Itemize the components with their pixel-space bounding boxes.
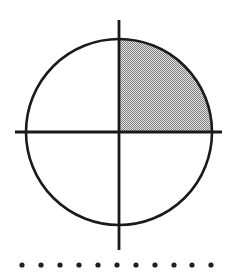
dot-marker xyxy=(95,262,100,267)
quadrant-diagram xyxy=(0,0,235,279)
dot-marker xyxy=(133,262,138,267)
figure-container xyxy=(0,0,235,279)
dot-marker xyxy=(19,262,24,267)
dot-marker xyxy=(114,262,119,267)
dot-marker xyxy=(76,262,81,267)
figure-background xyxy=(0,0,235,279)
dot-marker xyxy=(38,262,43,267)
dot-marker xyxy=(208,262,213,267)
dot-marker xyxy=(152,262,157,267)
dot-marker xyxy=(57,262,62,267)
dot-marker xyxy=(171,262,176,267)
dot-marker xyxy=(189,262,194,267)
